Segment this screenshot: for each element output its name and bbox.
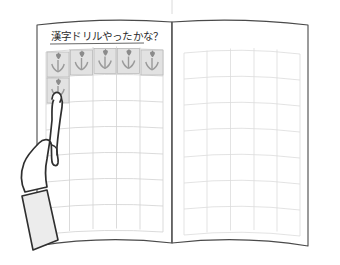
right-page[interactable]: [172, 20, 308, 246]
sticker-tulip[interactable]: [47, 52, 69, 77]
left-page-title-group: 漢字ドリルやったかな？: [50, 30, 163, 44]
page-title: 漢字ドリルやったかな？: [51, 30, 163, 42]
sticker-row-top: [47, 49, 163, 78]
illustration-canvas: 漢字ドリルやったかな？: [0, 0, 340, 265]
sticker-tulip[interactable]: [71, 50, 93, 75]
sticker-tulip[interactable]: [118, 49, 140, 74]
notebook-illustration-svg: 漢字ドリルやったかな？: [0, 0, 340, 265]
sticker-tulip[interactable]: [94, 49, 116, 74]
sticker-tulip[interactable]: [141, 50, 163, 75]
